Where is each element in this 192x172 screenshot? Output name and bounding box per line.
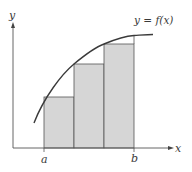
x-axis-label: x: [175, 143, 181, 154]
y-axis-label: y: [9, 10, 15, 21]
rectangle-2: [74, 64, 104, 148]
curve-label: y = f(x): [134, 15, 173, 26]
left-bound-label: a: [41, 154, 48, 165]
rectangle-3: [104, 44, 134, 148]
right-bound-label: b: [131, 153, 138, 164]
y-axis-arrow-icon: [11, 22, 15, 28]
x-axis-arrow-icon: [168, 146, 174, 150]
rectangle-1: [44, 97, 74, 148]
rectangles: [44, 44, 134, 148]
riemann-sum-diagram: y x a b y = f(x): [0, 0, 192, 172]
